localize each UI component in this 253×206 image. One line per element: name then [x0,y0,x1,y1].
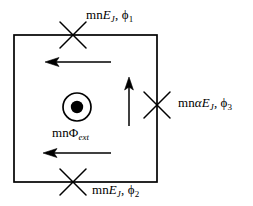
superconducting-loop [14,35,157,182]
label-bottom-comma: , [121,182,128,197]
label-flux-mn: mn [52,125,69,140]
label-top-comma: , [115,7,122,22]
label-bottom-phi: ϕ [128,182,135,197]
flux-out-of-page-icon [63,93,91,121]
label-top-phi: ϕ [122,7,129,22]
label-top-mn: mn [86,7,103,22]
label-bottom-mn: mn [92,182,109,197]
label-right-index: 3 [228,102,233,112]
label-flux-ext: ext [78,132,89,142]
label-right-E: E [202,95,210,110]
josephson-loop-figure: mnEJ, ϕ1 mnαEJ, ϕ3 mnEJ, ϕ2 mnΦext [0,0,253,206]
current-arrow-right [125,77,134,126]
label-bottom-E: E [109,182,117,197]
label-top-E: E [103,7,111,22]
label-right-comma: , [214,95,221,110]
junction-bottom-label: mnEJ, ϕ2 [92,183,139,199]
junction-right-label: mnαEJ, ϕ3 [178,96,232,112]
external-flux-label: mnΦext [52,126,89,142]
current-arrow-top [45,58,111,67]
label-bottom-index: 2 [135,189,140,199]
label-right-mn: mn [178,95,195,110]
label-right-phi: ϕ [221,95,228,110]
label-top-index: 1 [129,14,134,24]
label-right-alpha: α [195,95,202,110]
label-flux-phi: Φ [69,125,79,140]
current-arrow-bottom [43,149,111,158]
junction-top-label: mnEJ, ϕ1 [86,8,133,24]
